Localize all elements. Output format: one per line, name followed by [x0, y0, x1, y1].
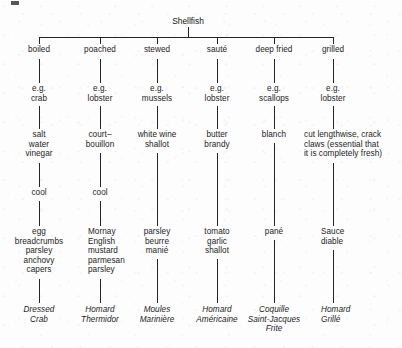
col2-ingredients: court– bouillon [86, 130, 115, 149]
col1-line-1 [39, 59, 40, 83]
col5-line-3 [274, 143, 275, 226]
col4-line-1 [217, 59, 218, 83]
col1-method: boiled [28, 45, 50, 55]
col2-line-2 [100, 106, 101, 129]
col1-line-3 [39, 163, 40, 187]
col6-ingredients: cut lengthwise, crack claws (essential t… [304, 130, 382, 159]
shellfish-cookery-flowchart: Shellfish boiled e.g. crab salt water vi… [0, 0, 402, 348]
root-branch-bar [39, 37, 334, 38]
col5-line-1 [274, 59, 275, 83]
root-label: Shellfish [172, 16, 204, 26]
col4-finish: tomato garlic shallot [204, 227, 229, 256]
col3-finish: parsley beurre manié [144, 227, 171, 256]
col3-line-3 [157, 153, 158, 226]
col3-ingredients: white wine shallot [138, 130, 177, 149]
col6-dish: Homard Grillé [321, 305, 350, 324]
col3-example: e.g. mussels [142, 84, 172, 103]
col2-example: e.g. lobster [88, 84, 113, 103]
col1-ingredients: salt water vinegar [25, 130, 52, 159]
col2-finish: Mornay English mustard parmesan parsley [88, 227, 125, 275]
col3-drop-0 [157, 37, 158, 44]
col6-example: e.g. lobster [321, 84, 346, 103]
col2-line-3 [100, 153, 101, 187]
col5-ingredients: blanch [262, 130, 286, 140]
col6-finish: Sauce diable [321, 227, 344, 246]
col1-step: cool [31, 188, 46, 198]
col2-line-4 [100, 201, 101, 226]
col5-finish: pané [265, 227, 283, 237]
col1-line-2 [39, 106, 40, 129]
col5-method: deep fried [256, 45, 293, 55]
col6-drop-0 [333, 37, 334, 44]
col2-step: cool [92, 188, 107, 198]
col1-line-4 [39, 201, 40, 226]
col1-dish: Dressed Crab [24, 305, 55, 324]
col5-line-5 [274, 240, 275, 303]
col6-line-2 [333, 106, 334, 129]
col3-dish: Moules Marinière [140, 305, 175, 324]
col5-example: e.g. scallops [259, 84, 289, 103]
col6-line-5 [333, 250, 334, 303]
col1-finish: egg breadcrumbs parsley anchovy capers [15, 227, 63, 275]
col4-example: e.g. lobster [205, 84, 230, 103]
col4-line-2 [217, 106, 218, 129]
col2-drop-0 [100, 37, 101, 44]
col5-dish: Coquille Saint-Jacques Frite [248, 305, 301, 334]
col3-line-5 [157, 259, 158, 303]
col4-line-3 [217, 153, 218, 226]
col6-line-1 [333, 59, 334, 83]
col2-method: poached [84, 45, 116, 55]
col5-drop-0 [274, 37, 275, 44]
col6-line-3 [333, 163, 334, 226]
col3-line-2 [157, 106, 158, 129]
col4-drop-0 [217, 37, 218, 44]
col4-dish: Homard Américaine [196, 305, 237, 324]
page-edge-artifact [11, 1, 19, 5]
col3-line-1 [157, 59, 158, 83]
col2-dish: Homard Thermidor [81, 305, 119, 324]
col2-line-5 [100, 279, 101, 303]
col4-ingredients: butter brandy [204, 130, 229, 149]
root-stem-line [188, 27, 189, 37]
col1-drop-0 [39, 37, 40, 44]
col6-method: grilled [322, 45, 344, 55]
col3-method: stewed [144, 45, 170, 55]
col1-line-5 [39, 279, 40, 303]
col5-line-2 [274, 106, 275, 129]
col1-example: e.g. crab [31, 84, 47, 103]
col2-line-1 [100, 59, 101, 83]
col4-method: sauté [207, 45, 227, 55]
col4-line-5 [217, 259, 218, 303]
